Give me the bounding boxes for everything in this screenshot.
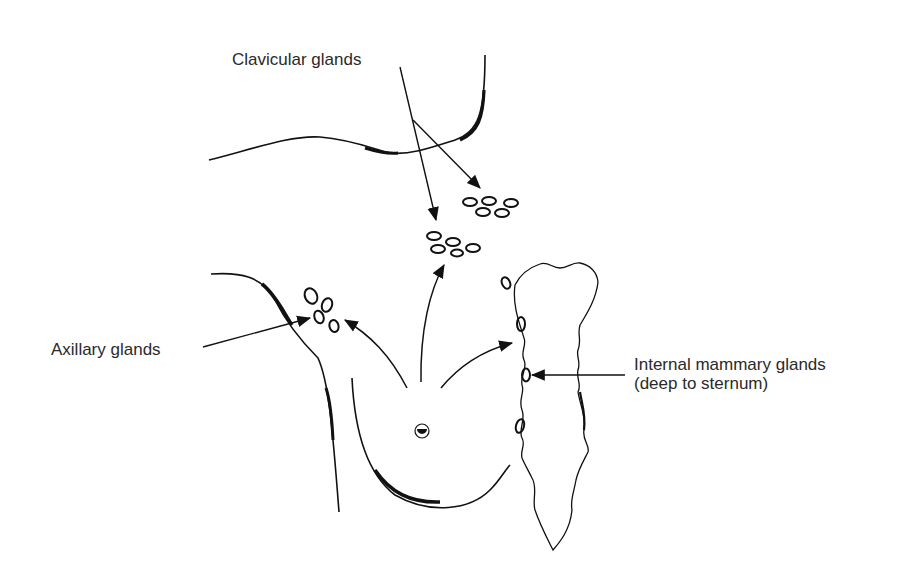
axillary-glands <box>302 286 340 333</box>
clavicle-outline <box>209 55 485 160</box>
axilla-outline <box>211 274 339 512</box>
clavicular-glands-lower <box>427 232 480 257</box>
internal-mammary-label: Internal mammary glands <box>634 355 826 374</box>
clavicular-glands-label: Clavicular glands <box>232 50 361 69</box>
clavicular-glands-upper <box>463 197 518 217</box>
drainage-arrows <box>345 265 512 388</box>
breast-outline <box>352 378 510 508</box>
sternum <box>514 263 598 550</box>
axillary-pointer <box>203 318 310 347</box>
diagram-canvas: Clavicular glands Axillary glands Intern… <box>0 0 915 576</box>
nipple <box>415 424 429 438</box>
internal-mammary-sublabel: (deep to sternum) <box>634 374 768 393</box>
clavicular-arrows <box>400 67 480 220</box>
axillary-glands-label: Axillary glands <box>51 340 161 359</box>
diagram-drawing <box>0 0 915 576</box>
